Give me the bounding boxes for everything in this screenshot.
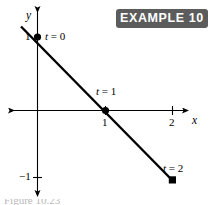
example-badge: EXAMPLE 10 [116,9,208,28]
annotation-t2: t = 2 [163,163,183,174]
parametric-line-plot [0,0,216,205]
point-t1 [102,107,109,114]
point-t2 [169,176,176,183]
x-tick-label-2: 2 [169,117,175,128]
parametric-line-segment [21,27,172,181]
annotation-t1: t = 1 [96,86,116,97]
y-tick-label-1: 1 [25,31,31,42]
y-axis-label: y [26,10,31,22]
annotation-t0: t = 0 [45,31,65,42]
y-tick-label-neg-1: −1 [19,171,31,182]
figure-container: EXAMPLE 10 y x 1 −1 1 2 t = 0 t = 1 t = … [0,0,216,205]
figure-caption-text: Figure 10.23 [4,199,60,205]
figure-caption-clipped: Figure 10.23 [0,199,216,205]
point-t0 [34,33,41,40]
x-tick-label-1: 1 [102,117,108,128]
x-axis-label: x [192,115,197,127]
